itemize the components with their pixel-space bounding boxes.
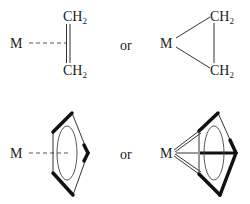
- diagram-canvas: M CH2 CH2 or M CH2 CH2 M or M: [0, 0, 250, 204]
- metal-label: M: [160, 36, 173, 51]
- or-connector-top: or: [120, 38, 132, 53]
- cyclopentadienyl-pi-complex: M: [10, 113, 88, 195]
- metal-label: M: [10, 36, 23, 51]
- ring-tip-lower: [84, 153, 88, 161]
- ch2-bottom-label: CH2: [63, 63, 87, 80]
- ring-lower-right-edge: [220, 153, 236, 195]
- metal-bond-lower-b: [175, 154, 201, 172]
- metal-label: M: [160, 146, 173, 161]
- or-connector-bottom: or: [120, 147, 132, 162]
- ch2-top-label: CH2: [63, 9, 87, 26]
- ring-front-lower-edge: [53, 173, 73, 195]
- metal-carbon-bond-top: [176, 17, 210, 38]
- ethylene-pi-complex: M CH2 CH2: [10, 9, 87, 80]
- ch2-top-label: CH2: [210, 9, 234, 26]
- metal-carbon-bond-bottom: [176, 47, 210, 68]
- metallacyclopropane: M CH2 CH2: [160, 9, 234, 80]
- metal-bond-upper-a: [174, 131, 199, 150]
- metal-label: M: [10, 146, 23, 161]
- ring-tip-upper: [230, 140, 236, 153]
- cyclopentadienyl-multi-bond: M: [160, 113, 236, 195]
- ch2-bottom-label: CH2: [210, 63, 234, 80]
- metal-bond-upper-b: [175, 133, 201, 152]
- metal-bond-lower-a: [174, 156, 199, 174]
- ring-front-upper-edge: [199, 113, 218, 131]
